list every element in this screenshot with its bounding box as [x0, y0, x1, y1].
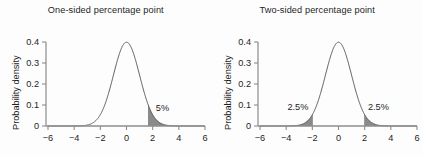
x-axis-tick-label: 0 — [124, 133, 129, 143]
y-axis-tick-label: 0.2 — [238, 79, 251, 89]
x-axis-tick-label: 2 — [362, 133, 367, 143]
percentage-annotation: 5% — [156, 103, 169, 113]
x-axis-tick-label: −6 — [254, 133, 264, 143]
panel-two-sided: Two-sided percentage point Probability d… — [212, 0, 423, 157]
y-axis-tick-label: 0 — [245, 121, 250, 131]
shaded-tail-region — [260, 114, 313, 126]
x-axis-tick-label: −4 — [280, 133, 290, 143]
y-axis-tick-label: 0.2 — [26, 79, 39, 89]
plot-area-one-sided: −6−4−2024600.10.20.30.45% — [0, 0, 212, 157]
panel-one-sided: One-sided percentage point Probability d… — [0, 0, 212, 157]
density-curve — [48, 42, 205, 126]
y-axis-tick-label: 0.3 — [238, 58, 251, 68]
x-axis-tick-label: −2 — [95, 133, 105, 143]
x-axis-tick-label: −2 — [307, 133, 317, 143]
percentage-annotation: 2.5% — [367, 102, 388, 112]
percentage-annotation: 2.5% — [287, 102, 308, 112]
x-axis-tick-label: −4 — [69, 133, 79, 143]
shaded-tail-region — [364, 114, 417, 126]
y-axis-tick-label: 0.1 — [238, 100, 251, 110]
x-axis-tick-label: 6 — [414, 133, 419, 143]
x-axis-tick-label: 4 — [388, 133, 393, 143]
x-axis-tick-label: 2 — [150, 133, 155, 143]
x-axis-tick-label: 4 — [176, 133, 181, 143]
y-axis-tick-label: 0.1 — [26, 100, 39, 110]
x-axis-tick-label: 6 — [202, 133, 207, 143]
density-curve — [260, 42, 417, 126]
figure-normal-percentage-points: One-sided percentage point Probability d… — [0, 0, 423, 157]
plot-area-two-sided: −6−4−2024600.10.20.30.42.5%2.5% — [212, 0, 423, 157]
y-axis-tick-label: 0.3 — [26, 58, 39, 68]
x-axis-tick-label: 0 — [335, 133, 340, 143]
x-axis-tick-label: −6 — [43, 133, 53, 143]
y-axis-tick-label: 0.4 — [26, 37, 39, 47]
y-axis-tick-label: 0.4 — [238, 37, 251, 47]
y-axis-tick-label: 0 — [34, 121, 39, 131]
